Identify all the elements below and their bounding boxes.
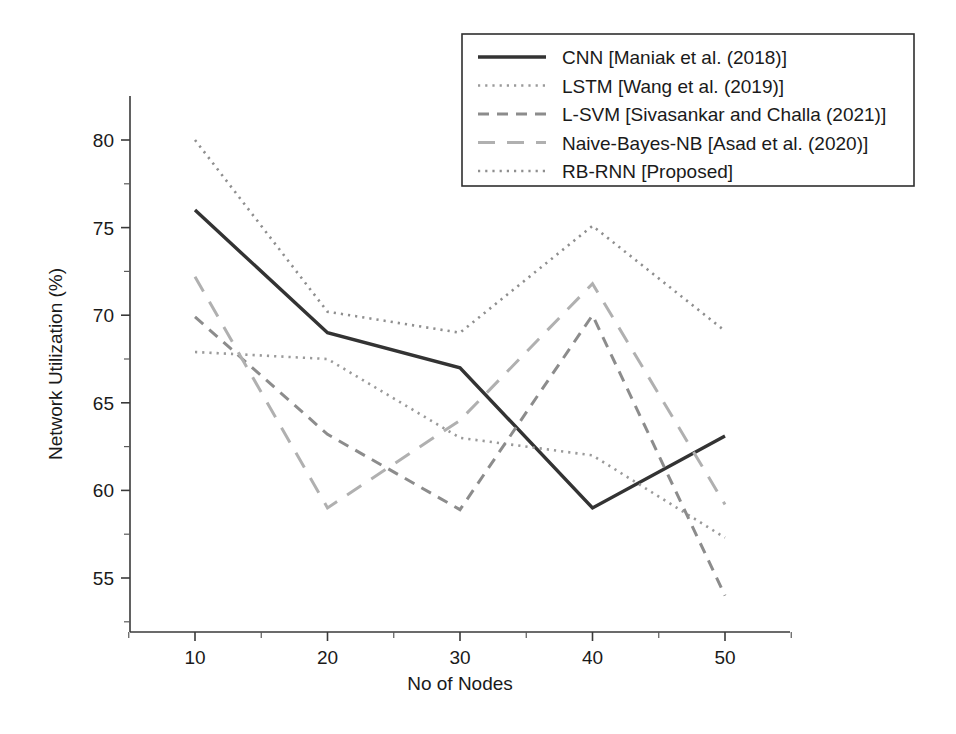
y-axis-title: Network Utilization (%) bbox=[45, 268, 66, 460]
x-tick-label: 30 bbox=[449, 647, 470, 668]
x-axis-title: No of Nodes bbox=[407, 673, 513, 694]
y-tick-label: 70 bbox=[93, 305, 114, 326]
series-line-0 bbox=[195, 210, 725, 508]
chart-container: 556065707580 1020304050 No of Nodes Netw… bbox=[0, 0, 956, 734]
legend-label-2: L-SVM [Sivasankar and Challa (2021)] bbox=[562, 104, 886, 125]
x-tick-label: 40 bbox=[582, 647, 603, 668]
x-tick-label: 20 bbox=[317, 647, 338, 668]
legend-label-0: CNN [Maniak et al. (2018)] bbox=[562, 47, 787, 68]
y-tick-label: 65 bbox=[93, 393, 114, 414]
y-tick-label: 55 bbox=[93, 568, 114, 589]
y-tick-label: 75 bbox=[93, 218, 114, 239]
x-tick-label: 50 bbox=[714, 647, 735, 668]
y-tick-label: 80 bbox=[93, 130, 114, 151]
legend-label-1: LSTM [Wang et al. (2019)] bbox=[562, 76, 784, 97]
x-tick-label: 10 bbox=[184, 647, 205, 668]
y-axis-ticks: 556065707580 bbox=[93, 130, 130, 622]
y-tick-label: 60 bbox=[93, 480, 114, 501]
line-chart: 556065707580 1020304050 No of Nodes Netw… bbox=[0, 0, 956, 734]
legend-label-3: Naive-Bayes-NB [Asad et al. (2020)] bbox=[562, 133, 868, 154]
legend-label-4: RB-RNN [Proposed] bbox=[562, 161, 733, 182]
x-axis-ticks: 1020304050 bbox=[129, 632, 792, 668]
legend: CNN [Maniak et al. (2018)]LSTM [Wang et … bbox=[462, 34, 914, 186]
data-series-group bbox=[195, 140, 725, 596]
series-line-3 bbox=[195, 277, 725, 508]
